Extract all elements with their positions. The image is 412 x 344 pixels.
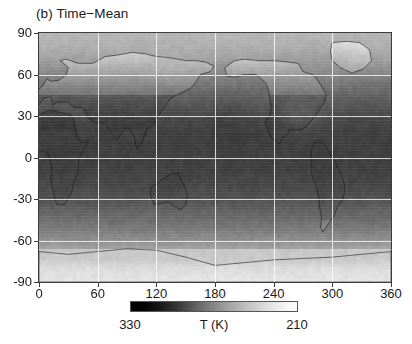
y-tick [34, 33, 38, 34]
x-tick-label: 180 [195, 286, 235, 301]
colorbar [130, 301, 298, 312]
y-tick [34, 158, 38, 159]
y-tick [34, 116, 38, 117]
y-tick-label: 60 [0, 67, 32, 82]
y-tick [34, 75, 38, 76]
x-tick-label: 300 [312, 286, 352, 301]
y-tick-label: -30 [0, 191, 32, 206]
colorbar-unit-label: T (K) [190, 317, 238, 332]
y-tick-label: -90 [0, 274, 32, 289]
y-tick-label: -60 [0, 233, 32, 248]
y-tick [34, 282, 38, 283]
x-tick-label: 240 [254, 286, 294, 301]
map-plot-area [38, 32, 392, 283]
y-tick [34, 241, 38, 242]
x-tick-label: 60 [78, 286, 118, 301]
y-tick-label: 0 [0, 150, 32, 165]
y-tick-label: 30 [0, 108, 32, 123]
page-title: (b) Time−Mean [36, 6, 128, 21]
temperature-heatmap [39, 33, 391, 282]
colorbar-min-label: 330 [106, 317, 154, 332]
x-tick-label: 360 [371, 286, 411, 301]
y-tick [34, 199, 38, 200]
colorbar-max-label: 210 [273, 317, 321, 332]
colorbar-gradient [130, 301, 298, 312]
x-tick-label: 120 [136, 286, 176, 301]
y-tick-label: 90 [0, 25, 32, 40]
